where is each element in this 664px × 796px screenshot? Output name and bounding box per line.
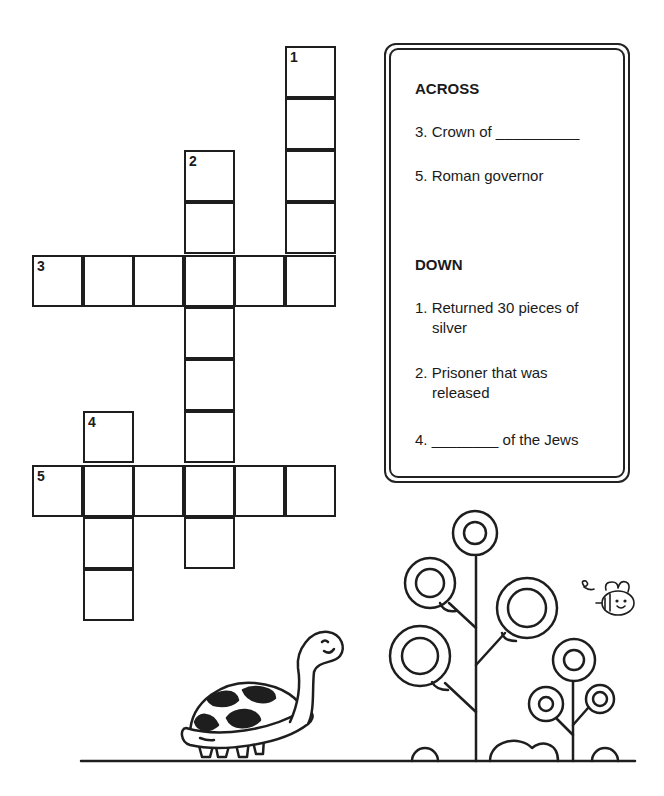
illustration-layer xyxy=(0,0,664,796)
tree-icon xyxy=(390,511,618,761)
bee-icon xyxy=(582,581,634,615)
turtle-icon xyxy=(182,632,343,757)
